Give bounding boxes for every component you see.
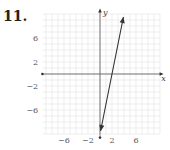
y-axis-arrow-icon bbox=[98, 9, 102, 13]
x-tick-label: 6 bbox=[133, 136, 138, 145]
y-tick-label: 6 bbox=[33, 34, 38, 43]
y-axis-label: y bbox=[102, 8, 108, 17]
y-tick-label: −2 bbox=[26, 82, 38, 91]
coordinate-plane-chart: xy −6−22662−2−6 bbox=[0, 0, 170, 150]
x-tick-label: −2 bbox=[82, 136, 94, 145]
x-tick-label: 2 bbox=[109, 136, 114, 145]
tick-labels: −6−22662−2−6 bbox=[26, 34, 138, 145]
y-tick-label: 2 bbox=[33, 58, 38, 67]
x-tick-label: −6 bbox=[58, 136, 70, 145]
y-tick-label: −6 bbox=[26, 106, 38, 115]
x-axis-label: x bbox=[161, 74, 166, 83]
axes: xy bbox=[41, 8, 166, 139]
